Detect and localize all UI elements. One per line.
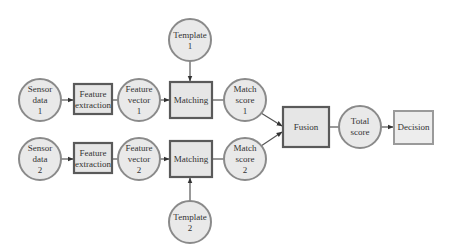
svg-text:vector: vector — [128, 154, 151, 164]
node-fusion: Fusion — [283, 107, 329, 147]
svg-text:2: 2 — [188, 223, 193, 233]
node-sensor-data-1: Sensor data 1 — [19, 79, 61, 121]
svg-text:score: score — [236, 95, 255, 105]
svg-text:Feature: Feature — [80, 148, 107, 158]
svg-text:Matching: Matching — [174, 154, 209, 164]
svg-text:Sensor: Sensor — [28, 84, 53, 94]
node-feature-vector-2: Feature vector 2 — [118, 138, 160, 180]
svg-text:extraction: extraction — [75, 100, 111, 110]
node-template-1: Template 1 — [169, 19, 211, 61]
svg-text:1: 1 — [38, 106, 43, 116]
svg-text:Fusion: Fusion — [294, 122, 319, 132]
node-matching-2: Matching — [170, 141, 212, 177]
svg-text:Feature: Feature — [80, 89, 107, 99]
svg-text:2: 2 — [38, 165, 43, 175]
svg-text:Matching: Matching — [174, 95, 209, 105]
svg-text:Sensor: Sensor — [28, 143, 53, 153]
node-matching-1: Matching — [170, 82, 212, 118]
svg-text:2: 2 — [243, 165, 248, 175]
svg-text:extraction: extraction — [75, 159, 111, 169]
svg-text:Match: Match — [234, 84, 257, 94]
node-decision: Decision — [394, 111, 433, 144]
node-match-score-1: Match score 1 — [224, 79, 266, 121]
svg-text:Feature: Feature — [126, 84, 153, 94]
svg-text:Total: Total — [351, 116, 370, 126]
edge-ms2-fusion — [261, 132, 282, 146]
svg-text:Template: Template — [173, 212, 206, 222]
node-sensor-data-2: Sensor data 2 — [19, 138, 61, 180]
svg-text:Decision: Decision — [398, 122, 430, 132]
svg-text:score: score — [236, 154, 255, 164]
node-feature-extraction-1: Feature extraction — [74, 84, 112, 114]
svg-text:score: score — [351, 127, 370, 137]
svg-text:Feature: Feature — [126, 143, 153, 153]
node-feature-vector-1: Feature vector 1 — [118, 79, 160, 121]
node-total-score: Total score — [339, 106, 381, 148]
biometric-fusion-diagram: Sensor data 1 Feature extraction Feature… — [0, 0, 449, 250]
svg-text:1: 1 — [188, 41, 193, 51]
svg-text:vector: vector — [128, 95, 151, 105]
node-feature-extraction-2: Feature extraction — [74, 143, 112, 173]
svg-text:1: 1 — [137, 106, 142, 116]
svg-text:2: 2 — [137, 165, 142, 175]
node-match-score-2: Match score 2 — [224, 138, 266, 180]
svg-text:data: data — [33, 95, 48, 105]
svg-text:Match: Match — [234, 143, 257, 153]
svg-text:Template: Template — [173, 30, 206, 40]
svg-text:1: 1 — [243, 106, 248, 116]
edge-ms1-fusion — [261, 113, 282, 126]
node-template-2: Template 2 — [169, 201, 211, 243]
svg-text:data: data — [33, 154, 48, 164]
